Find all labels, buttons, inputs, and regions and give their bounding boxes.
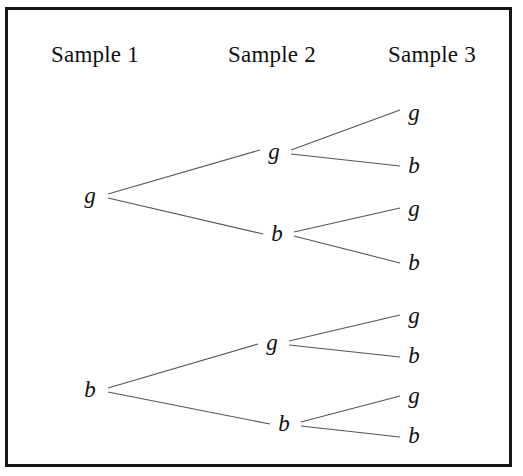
column-header-1: Sample 1 — [51, 42, 139, 68]
tree-node-l8: b — [408, 423, 420, 449]
tree-node-l4: b — [408, 250, 420, 276]
tree-node-l5: g — [408, 303, 420, 329]
tree-node-l6: b — [408, 343, 420, 369]
tree-node-l7: g — [408, 383, 420, 409]
tree-node-l2: b — [408, 153, 420, 179]
tree-node-n2b: b — [278, 411, 290, 437]
column-header-3: Sample 3 — [388, 42, 476, 68]
tree-node-n2g: g — [266, 330, 278, 356]
tree-node-l3: g — [408, 196, 420, 222]
tree-node-n1: g — [84, 183, 96, 209]
column-header-2: Sample 2 — [228, 42, 316, 68]
tree-node-n1b: b — [271, 221, 283, 247]
tree-node-n2: b — [84, 377, 96, 403]
tree-diagram-figure: Sample 1Sample 2Sample 3 gbgbgbgbgbgbgb — [0, 0, 523, 476]
figure-border — [5, 7, 512, 467]
tree-node-n1g: g — [268, 139, 280, 165]
tree-node-l1: g — [408, 100, 420, 126]
